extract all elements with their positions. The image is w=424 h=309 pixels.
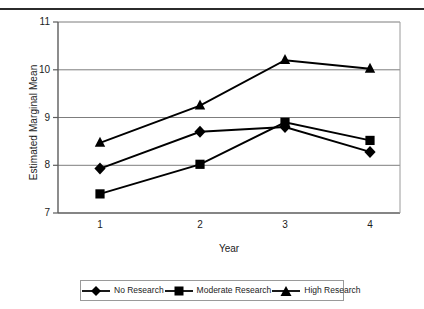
legend-label-moderate-research: Moderate Research [197,286,272,295]
x-axis-label: Year [58,243,400,254]
triangle-marker-icon [271,285,301,297]
legend-label-no-research: No Research [114,286,164,295]
square-marker-icon [164,285,194,297]
legend-item-high-research: High Research [271,285,360,297]
y-tick-label-10: 10 [28,64,50,75]
y-tick-label-8: 8 [28,159,50,170]
legend-label-high-research: High Research [304,286,360,295]
legend-item-moderate-research: Moderate Research [164,285,272,297]
y-tick-marks [53,22,58,213]
gridlines [58,22,400,165]
figure: Estimated Marginal Mean 11 10 9 8 7 1 2 … [0,0,424,309]
y-tick-label-7: 7 [28,207,50,218]
legend-item-no-research: No Research [81,285,164,297]
chart-plot-area: Estimated Marginal Mean 11 10 9 8 7 1 2 … [0,0,424,270]
y-tick-label-9: 9 [28,112,50,123]
x-tick-label-2: 2 [187,219,213,230]
x-tick-label-4: 4 [357,219,383,230]
diamond-marker-icon [81,285,111,297]
chart-legend: No Research Moderate Research High Resea… [80,280,344,301]
y-tick-label-11: 11 [28,16,50,27]
x-tick-label-3: 3 [272,219,298,230]
x-tick-label-1: 1 [87,219,113,230]
